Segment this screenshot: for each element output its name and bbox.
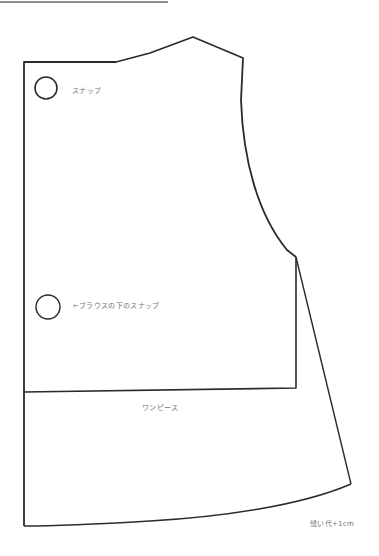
piece-name-label: ワンピース: [142, 402, 179, 412]
snap-lower-icon: [36, 295, 60, 319]
sewing-pattern-diagram: [0, 0, 379, 556]
hem-curve: [24, 484, 351, 526]
seam-allowance-label: 縫い代+1cm: [310, 518, 354, 528]
snap-lower-label: ←ブラウスの下のスナップ: [73, 300, 159, 310]
side-seam-line: [296, 257, 351, 484]
snap-upper-label: スナップ: [72, 85, 101, 95]
bodice-outline: [24, 37, 296, 526]
snap-upper-icon: [35, 77, 57, 99]
blouse-panel-line: [24, 257, 296, 392]
